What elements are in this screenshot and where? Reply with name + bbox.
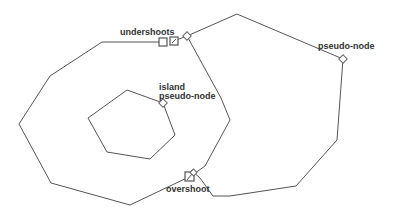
undershoot-marker-icon [159,38,167,46]
label-undershoots: undershoots [120,27,175,37]
diagram-canvas: undershoots pseudo-node island pseudo-no… [0,0,398,214]
label-island-pseudo-node: pseudo-node [159,91,216,101]
diagram-svg [0,0,398,214]
left-polygon [19,36,230,205]
label-overshoot: overshoot [166,184,210,194]
pseudo-node-diamond-icon [183,32,191,40]
pseudo-node-diamond-icon [339,55,347,63]
label-pseudo-node: pseudo-node [318,41,375,51]
